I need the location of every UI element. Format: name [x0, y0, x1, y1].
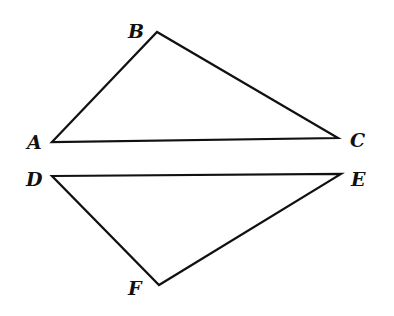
- vertex-label-c: C: [350, 129, 365, 151]
- vertex-label-d: D: [25, 168, 43, 190]
- triangle-def-outline: [52, 174, 341, 285]
- triangle-abc: [52, 32, 338, 142]
- vertex-label-f: F: [127, 277, 143, 299]
- geometry-diagram: B A C D E F: [0, 0, 394, 316]
- triangle-def: [52, 174, 341, 285]
- vertex-label-e: E: [350, 168, 366, 190]
- vertex-label-b: B: [127, 20, 144, 42]
- vertex-label-a: A: [25, 131, 42, 153]
- triangle-abc-outline: [52, 32, 338, 142]
